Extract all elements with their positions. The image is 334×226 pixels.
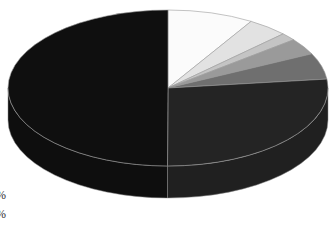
legend-label-fragment-1: % — [0, 188, 6, 203]
pie-chart — [0, 0, 334, 226]
legend-label-fragment-2: % — [0, 207, 6, 222]
